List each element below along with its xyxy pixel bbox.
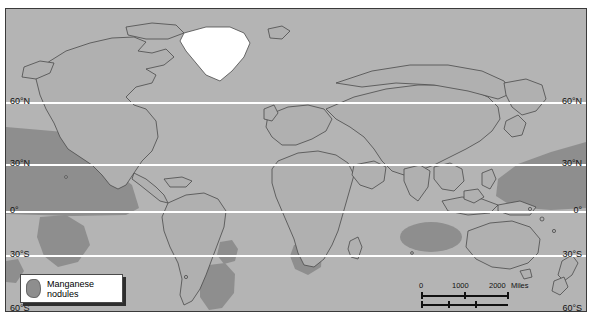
lat-label-left-equator: 0° (10, 206, 19, 215)
scale-km-tickmark-1 (448, 301, 450, 308)
scale-bar: 0 1000 2000 Miles 0 1000 2000 Kilometers (419, 281, 529, 312)
scale-miles-tick-1000: 1000 (452, 281, 469, 290)
landmass-arctic-islands (126, 23, 184, 39)
scale-miles-labels: 0 1000 2000 Miles (419, 281, 529, 292)
lat-label-left-30s: 30°S (10, 250, 30, 259)
landmass-layer (6, 9, 586, 311)
legend: Manganese nodules (20, 274, 123, 303)
scale-km-bar (421, 304, 508, 306)
island-speck-6 (184, 275, 187, 278)
landmass-north-america (36, 37, 174, 189)
scale-miles-tickmark-0 (421, 292, 423, 299)
scale-miles-tick-2000: 2000 (489, 281, 506, 290)
island-speck-4 (411, 252, 414, 255)
gridline-30n (6, 164, 586, 166)
landmass-caribbean (164, 177, 192, 187)
landmass-northeast-asia (504, 79, 546, 115)
legend-label-line2: nodules (47, 289, 94, 299)
landmass-tasmania (520, 269, 532, 279)
landmass-philippines (482, 169, 496, 189)
island-speck-2 (552, 229, 555, 232)
landmass-central-america (132, 173, 168, 203)
scale-km-tickmark-2 (475, 301, 477, 308)
gridline-60n (6, 102, 586, 104)
lat-label-right-60n: 60°N (562, 97, 582, 106)
lat-label-right-60s: 60°S (562, 304, 582, 312)
scale-km-labels: 0 1000 2000 Kilometers (419, 309, 529, 312)
scale-km-tickmark-0 (421, 301, 423, 308)
gridline-equator (6, 211, 586, 213)
landmass-greenland (180, 27, 250, 81)
landmass-india (404, 165, 430, 201)
island-speck-1 (540, 217, 544, 221)
world-map: 60°N 30°N 0° 30°S 60°S 60°N 30°N 0° 30°S… (5, 8, 587, 312)
island-speck-5 (65, 176, 68, 179)
landmass-svalbard (268, 26, 290, 39)
landmass-south-america (162, 193, 226, 305)
scale-km-tick-0: 0 (419, 309, 423, 312)
landmass-australia (466, 221, 540, 269)
scale-km-tick-1000: 1000 (440, 309, 457, 312)
landmass-southeast-asia (434, 163, 464, 191)
landmass-japan (504, 115, 526, 137)
scale-miles-tickmark-2 (507, 292, 509, 299)
lat-label-right-30s: 30°S (562, 250, 582, 259)
lat-label-right-30n: 30°N (562, 159, 582, 168)
gridline-30s (6, 255, 586, 257)
scale-miles-rule (419, 292, 529, 299)
scale-km-tick-2000: 2000 (467, 309, 484, 312)
landmass-asia (326, 85, 500, 175)
scale-miles-unit: Miles (511, 281, 529, 290)
legend-label: Manganese nodules (47, 279, 94, 299)
lat-label-left-30n: 30°N (10, 159, 30, 168)
scale-km-rule (419, 301, 529, 308)
scale-miles-tick-0: 0 (419, 281, 423, 290)
legend-label-line1: Manganese (47, 279, 94, 289)
lat-label-left-60n: 60°N (10, 97, 30, 106)
lat-label-right-equator: 0° (573, 206, 582, 215)
landmass-africa (272, 151, 354, 267)
scale-km-unit: Kilometers (492, 309, 527, 312)
scale-miles-tickmark-1 (464, 292, 466, 299)
manganese-nodule-swatch (26, 279, 41, 298)
